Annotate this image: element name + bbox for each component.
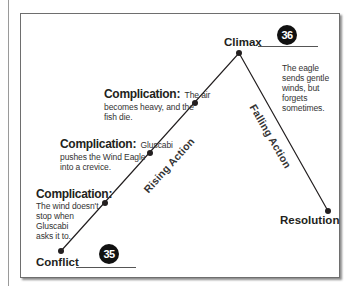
note-line: The eagle <box>282 63 329 73</box>
falling-action-note: The eagle sends gentle winds, but forget… <box>282 63 329 113</box>
complication-text: pushes the Wind Eagle <box>60 152 173 162</box>
note-line: winds, but <box>282 83 329 93</box>
complication-text: fish die. <box>104 112 210 122</box>
climax-answer-line <box>258 46 318 47</box>
complication-3: Complication: The air becomes heavy, and… <box>104 84 210 122</box>
conflict-label: Conflict <box>36 256 79 268</box>
complication-text: stop when <box>36 211 112 221</box>
complication-heading: Complication: <box>60 137 136 151</box>
complication-1: Complication: The wind doesn't stop when… <box>36 187 112 241</box>
complication-heading: Complication: <box>104 87 180 101</box>
note-line: sends gentle <box>282 73 329 83</box>
complication-2: Complication: Gluscabi pushes the Wind E… <box>60 134 173 172</box>
resolution-label: Resolution <box>280 214 339 226</box>
note-line: sometimes. <box>282 103 329 113</box>
climax-page-badge: 36 <box>277 25 297 45</box>
conflict-page-badge: 35 <box>99 244 119 264</box>
complication-text: The air <box>185 90 211 100</box>
complication-text: asks it to. <box>36 231 112 241</box>
complication-text: becomes heavy, and the <box>104 102 210 112</box>
note-line: forgets <box>282 93 329 103</box>
conflict-dot <box>58 248 64 254</box>
complication-text: Gluscabi <box>141 140 173 150</box>
climax-label: Climax <box>224 36 262 48</box>
complication-heading: Complication: <box>36 187 112 201</box>
complication-text: Gluscabi <box>36 221 112 231</box>
complication-text: The wind doesn't <box>36 201 112 211</box>
conflict-answer-line <box>76 267 136 268</box>
climax-dot <box>236 50 242 56</box>
